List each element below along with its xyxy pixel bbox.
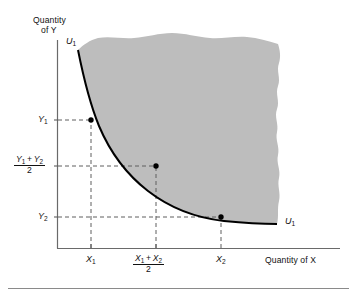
x-tick-label-x2: X2 bbox=[216, 254, 226, 264]
x-tick-xmid-num-a: X bbox=[135, 253, 141, 263]
curve-label-u1-top-sub: 1 bbox=[73, 40, 77, 47]
y-tick-ymid-num-a-sub: 1 bbox=[22, 158, 26, 165]
y-tick-ymid-num-a: Y bbox=[16, 154, 22, 164]
point-x2-y2 bbox=[218, 214, 223, 219]
y-tick-label-y2-sub: 2 bbox=[44, 215, 48, 222]
y-axis-title-line2: of Y bbox=[33, 26, 57, 36]
y-tick-ymid-num-b-sub: 2 bbox=[39, 158, 43, 165]
y-tick-label-ymid-numerator: Y1+Y2 bbox=[14, 155, 45, 166]
bottom-divider bbox=[8, 288, 349, 289]
curve-label-u1-right: U1 bbox=[285, 216, 295, 226]
shaded-preferred-set-region bbox=[78, 33, 280, 224]
x-tick-label-xmid-denominator: 2 bbox=[133, 265, 164, 275]
x-tick-xmid-num-b-sub: 2 bbox=[158, 257, 162, 264]
y-tick-label-y1-sub: 1 bbox=[44, 118, 48, 125]
x-tick-label-x1-sub: 1 bbox=[92, 258, 96, 265]
x-axis-title: Quantity of X bbox=[265, 256, 316, 266]
point-midpoint bbox=[153, 163, 158, 168]
curve-label-u1-top-letter: U bbox=[66, 36, 73, 46]
y-tick-label-y2: Y2 bbox=[38, 211, 48, 221]
y-tick-label-ymid-fraction: Y1+Y2 2 bbox=[14, 155, 45, 175]
x-tick-label-xmid-numerator: X1+X2 bbox=[133, 254, 164, 265]
figure-container: Quantity of Y Quantity of X U1 U1 Y1 Y1+… bbox=[0, 0, 357, 302]
x-tick-label-xmid-fraction: X1+X2 2 bbox=[133, 254, 164, 274]
x-tick-label-xmid: X1+X2 2 bbox=[133, 254, 164, 274]
y-axis-title-line1: Quantity bbox=[33, 15, 66, 25]
x-tick-xmid-op: + bbox=[145, 253, 153, 263]
y-tick-label-y1: Y1 bbox=[38, 114, 48, 124]
y-tick-ymid-op: + bbox=[26, 154, 34, 164]
y-axis-title: Quantity of Y bbox=[33, 16, 66, 35]
curve-label-u1-top: U1 bbox=[66, 36, 76, 46]
x-tick-xmid-num-a-sub: 1 bbox=[141, 257, 145, 264]
point-x1-y1 bbox=[88, 117, 93, 122]
curve-label-u1-right-letter: U bbox=[285, 216, 292, 226]
x-tick-label-x2-sub: 2 bbox=[222, 258, 226, 265]
y-tick-label-ymid: Y1+Y2 2 bbox=[14, 155, 45, 175]
x-tick-label-x1: X1 bbox=[86, 254, 96, 264]
y-tick-label-ymid-denominator: 2 bbox=[14, 166, 45, 176]
curve-label-u1-right-sub: 1 bbox=[292, 220, 296, 227]
